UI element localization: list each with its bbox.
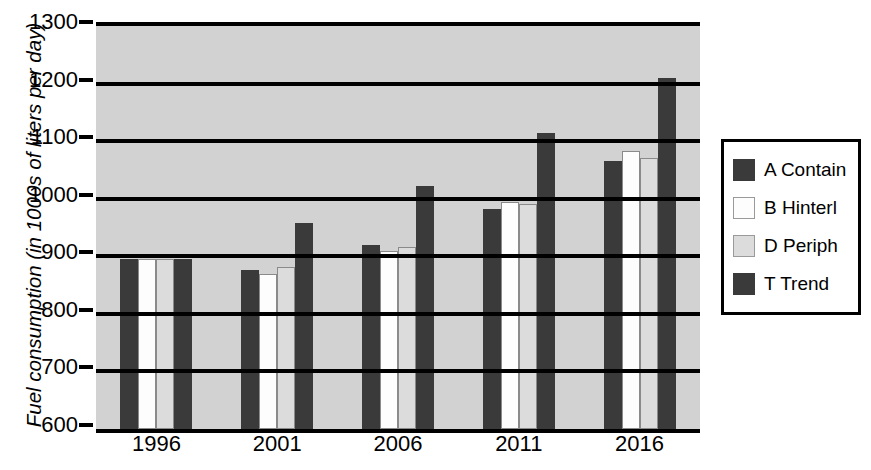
y-axis-tick-mark: [79, 20, 93, 24]
gridline: [96, 139, 700, 143]
legend-item-d-periph[interactable]: D Periph: [733, 227, 850, 265]
bar-a-contain-2006[interactable]: [362, 245, 380, 429]
legend-item-label: T Trend: [764, 273, 829, 295]
x-axis-tick-group: 19962001200620112016: [96, 431, 700, 457]
y-axis-tick-label: 1000: [8, 184, 78, 206]
y-axis-tick-label: 800: [8, 299, 78, 321]
y-axis-tick-mark: [79, 308, 93, 312]
bar-t-trend-2006[interactable]: [416, 186, 434, 429]
bar-b-hinterl-2006[interactable]: [380, 251, 398, 429]
white-swatch-icon: [733, 197, 755, 219]
bar-d-periph-2001[interactable]: [277, 267, 295, 429]
bar-a-contain-2016[interactable]: [604, 161, 622, 429]
y-axis-tick-mark: [79, 365, 93, 369]
legend-item-label: B Hinterl: [764, 197, 837, 219]
y-axis-tick-mark: [79, 423, 93, 427]
y-axis-tick-group: 6007008009001000110012001300: [0, 0, 96, 470]
bar-chart: Fuel consumption (in 1000s of liters per…: [0, 0, 871, 470]
x-axis-tick-label: 2011: [458, 431, 579, 457]
bar-d-periph-2011[interactable]: [519, 204, 537, 429]
legend-item-b-hinterl[interactable]: B Hinterl: [733, 189, 850, 227]
gridline: [96, 197, 700, 201]
x-axis-tick-label: 2006: [338, 431, 459, 457]
y-axis-tick-label: 700: [8, 356, 78, 378]
y-axis-tick-mark: [79, 135, 93, 139]
y-axis-tick-label: 1100: [8, 126, 78, 148]
y-axis-tick-label: 900: [8, 241, 78, 263]
y-axis-tick-label: 600: [8, 414, 78, 436]
x-axis-tick-label: 1996: [96, 431, 217, 457]
bar-t-trend-2011[interactable]: [537, 133, 555, 429]
gridline: [96, 82, 700, 86]
legend-item-t-trend[interactable]: T Trend: [733, 265, 850, 303]
dark-swatch-icon: [733, 159, 755, 181]
light-gray-swatch-icon: [733, 235, 755, 257]
legend-item-label: D Periph: [764, 235, 838, 257]
legend-item-label: A Contain: [764, 159, 846, 181]
y-axis-tick-mark: [79, 193, 93, 197]
gridline: [96, 369, 700, 373]
bar-d-periph-2006[interactable]: [398, 247, 416, 430]
bar-b-hinterl-1996[interactable]: [138, 259, 156, 429]
bar-t-trend-1996[interactable]: [174, 259, 192, 429]
plot-area: [96, 22, 700, 433]
gridline: [96, 254, 700, 258]
bar-a-contain-2011[interactable]: [483, 209, 501, 429]
bar-d-periph-1996[interactable]: [156, 259, 174, 429]
dark-swatch-icon: [733, 273, 755, 295]
legend: A ContainB HinterlD PeriphT Trend: [721, 139, 861, 315]
bar-b-hinterl-2001[interactable]: [259, 274, 277, 429]
bar-b-hinterl-2016[interactable]: [622, 151, 640, 429]
y-axis-tick-mark: [79, 78, 93, 82]
y-axis-tick-mark: [79, 250, 93, 254]
x-axis-tick-label: 2001: [217, 431, 338, 457]
x-axis-tick-label: 2016: [579, 431, 700, 457]
gridline: [96, 312, 700, 316]
bar-a-contain-1996[interactable]: [120, 259, 138, 429]
legend-item-a-contain[interactable]: A Contain: [733, 151, 850, 189]
bar-a-contain-2001[interactable]: [241, 270, 259, 429]
y-axis-tick-label: 1200: [8, 69, 78, 91]
y-axis-tick-label: 1300: [8, 11, 78, 33]
